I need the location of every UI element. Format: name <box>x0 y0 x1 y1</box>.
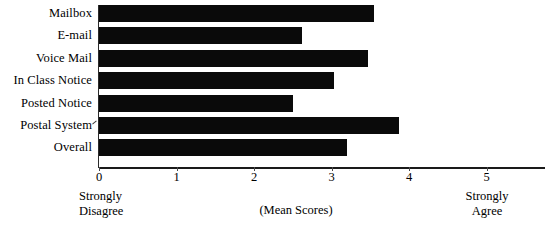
category-label: Mailbox <box>0 7 92 19</box>
scale-anchor-high-line2: Agree <box>427 204 547 219</box>
x-axis-tick-label: 4 <box>394 170 424 184</box>
x-axis-tick-label: 5 <box>472 170 502 184</box>
category-label: Postal System <box>0 119 92 131</box>
x-axis-tick-label: 2 <box>239 170 269 184</box>
category-axis-labels: MailboxE-mailVoice MailIn Class NoticePo… <box>0 5 92 165</box>
bar <box>99 5 374 22</box>
category-label: In Class Notice <box>0 74 92 86</box>
bar <box>99 50 368 67</box>
scale-anchor-low-line2: Disagree <box>79 204 123 219</box>
y-axis-spine <box>98 5 99 168</box>
x-axis-tick-label: 1 <box>162 170 192 184</box>
x-axis-tick-label: 0 <box>84 170 114 184</box>
scale-anchor-low: Strongly Disagree <box>79 189 123 218</box>
scan-artifact-mark <box>92 121 97 125</box>
scale-anchor-high: Strongly Agree <box>427 189 547 218</box>
category-label: Overall <box>0 141 92 153</box>
horizontal-bar-chart: MailboxE-mailVoice MailIn Class NoticePo… <box>0 0 552 235</box>
bar <box>99 139 347 156</box>
scale-anchor-high-line1: Strongly <box>427 189 547 204</box>
category-label: E-mail <box>0 29 92 41</box>
bar <box>99 72 334 89</box>
scale-anchor-low-line1: Strongly <box>79 189 123 204</box>
category-label: Voice Mail <box>0 52 92 64</box>
x-axis-title: (Mean Scores) <box>206 203 386 218</box>
x-axis-tick-label: 3 <box>317 170 347 184</box>
bar <box>99 117 399 134</box>
category-label: Posted Notice <box>0 97 92 109</box>
x-axis-line <box>99 167 545 169</box>
plot-area <box>99 5 545 167</box>
bar <box>99 95 293 112</box>
bar <box>99 27 302 44</box>
